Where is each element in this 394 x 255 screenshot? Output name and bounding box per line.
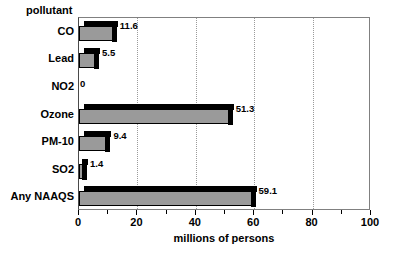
bar-so2: 1.4	[79, 159, 89, 181]
category-label-lead: Lead	[0, 52, 74, 64]
x-tick-label: 20	[130, 216, 142, 228]
x-tick-label: 100	[361, 216, 379, 228]
x-minor-tick	[341, 210, 342, 214]
bar-value-label: 51.3	[236, 103, 255, 114]
bar-side-face	[105, 131, 110, 152]
gridline	[313, 18, 314, 209]
bar-no2: 0	[79, 76, 87, 98]
bar-value-label: 59.1	[259, 185, 278, 196]
bar-any-naaqs: 59.1	[79, 186, 258, 208]
category-label-any-naaqs: Any NAAQS	[0, 190, 74, 202]
x-minor-tick	[224, 210, 225, 214]
x-tick-label: 80	[305, 216, 317, 228]
category-label-ozone: Ozone	[0, 108, 74, 120]
bar-side-face	[82, 159, 87, 180]
bar-ozone: 51.3	[79, 104, 235, 126]
bar-lead: 5.5	[79, 48, 101, 70]
x-tick-label: 60	[247, 216, 259, 228]
bar-side-face	[251, 186, 256, 207]
x-tick	[195, 210, 196, 215]
bar-side-face	[112, 21, 117, 42]
bar-value-label: 1.4	[90, 158, 103, 169]
x-tick-label: 0	[75, 216, 81, 228]
x-tick	[312, 210, 313, 215]
category-label-so2: SO2	[0, 163, 74, 175]
plot-area: 11.65.5051.39.41.459.1	[78, 17, 370, 210]
x-tick	[370, 210, 371, 215]
bar-front-face	[79, 136, 106, 151]
category-axis-labels: COLeadNO2OzonePM-10SO2Any NAAQS	[0, 17, 74, 210]
y-axis-title: pollutant	[26, 4, 72, 16]
x-minor-tick	[166, 210, 167, 214]
gridline	[254, 18, 255, 209]
bar-side-face	[94, 48, 99, 69]
bar-value-label: 0	[80, 78, 85, 89]
bar-value-label: 9.4	[113, 130, 126, 141]
x-tick	[253, 210, 254, 215]
bar-front-face	[79, 53, 95, 68]
bar-pm-10: 9.4	[79, 131, 112, 153]
x-tick	[78, 210, 79, 215]
x-tick	[136, 210, 137, 215]
x-minor-tick	[282, 210, 283, 214]
bar-front-face	[79, 109, 229, 124]
x-axis-title: millions of persons	[78, 232, 370, 244]
category-label-pm-10: PM-10	[0, 135, 74, 147]
bar-co: 11.6	[79, 21, 119, 43]
bar-value-label: 11.6	[120, 20, 138, 31]
category-label-co: CO	[0, 25, 74, 37]
x-tick-label: 40	[189, 216, 201, 228]
bar-chart: pollutant COLeadNO2OzonePM-10SO2Any NAAQ…	[0, 0, 394, 255]
bar-front-face	[79, 26, 113, 41]
bar-value-label: 5.5	[102, 47, 115, 58]
bar-side-face	[228, 104, 233, 125]
bar-front-face	[79, 191, 252, 206]
category-label-no2: NO2	[0, 80, 74, 92]
x-minor-tick	[107, 210, 108, 214]
